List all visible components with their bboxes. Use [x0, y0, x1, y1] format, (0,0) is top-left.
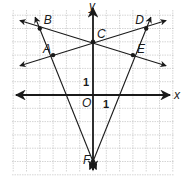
- point-b: [38, 26, 42, 30]
- point-label-d: D: [135, 13, 144, 27]
- point-label-c: C: [97, 27, 106, 41]
- line-FAB: [35, 17, 93, 161]
- y-tick-label: 1: [83, 76, 89, 88]
- point-e: [131, 53, 135, 57]
- point-c: [91, 40, 95, 44]
- point-d: [144, 26, 148, 30]
- point-label-e: E: [137, 42, 146, 56]
- point-label-b: B: [44, 13, 52, 27]
- x-tick-label: 1: [103, 98, 109, 110]
- coordinate-plane-diagram: ABCDEF x y O 1 1: [0, 0, 187, 177]
- point-label-f: F: [83, 153, 91, 167]
- x-axis-label: x: [173, 88, 181, 102]
- point-label-a: A: [42, 42, 51, 56]
- origin-label: O: [82, 96, 91, 110]
- point-a: [51, 53, 55, 57]
- y-axis-label: y: [88, 0, 96, 13]
- point-f: [91, 159, 95, 163]
